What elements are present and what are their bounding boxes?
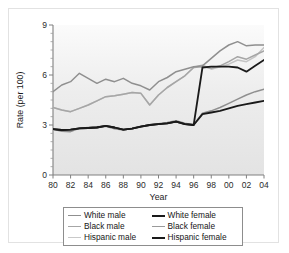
- legend-item-label: White male: [84, 211, 126, 220]
- legend-item[interactable]: Black male: [68, 221, 149, 232]
- legend-column-right: White femaleBlack femaleHispanic female: [149, 210, 239, 243]
- legend-column-left: White maleBlack maleHispanic male: [68, 210, 149, 243]
- y-axis-title: Rate (per 100): [15, 72, 25, 129]
- y-axis-tick-label: 9: [42, 20, 47, 30]
- legend-item-label: Hispanic male: [84, 233, 136, 242]
- legend-item-label: White female: [168, 211, 216, 220]
- chart-legend: White maleBlack maleHispanic male White …: [63, 207, 243, 246]
- y-axis-tick-label: 6: [42, 70, 47, 80]
- x-axis-tick-label: 00: [224, 180, 234, 190]
- legend-item-label: Black male: [84, 222, 125, 231]
- legend-item[interactable]: Hispanic female: [152, 232, 239, 243]
- figure-frame: 036980828486889092949698000204YearRate (…: [8, 8, 279, 243]
- legend-swatch-line-icon: [68, 215, 81, 216]
- x-axis-tick-label: 94: [171, 180, 181, 190]
- y-axis-tick-label: 3: [42, 120, 47, 130]
- legend-swatch-line-icon: [68, 237, 81, 238]
- x-axis-tick-label: 82: [66, 180, 76, 190]
- plot-background: [53, 25, 264, 175]
- legend-item[interactable]: White female: [152, 210, 239, 221]
- x-axis-tick-label: 96: [189, 180, 199, 190]
- x-axis-tick-label: 86: [101, 180, 111, 190]
- x-axis-tick-label: 90: [136, 180, 146, 190]
- x-axis-tick-label: 02: [242, 180, 252, 190]
- x-axis-tick-label: 92: [154, 180, 164, 190]
- x-axis-tick-label: 88: [119, 180, 129, 190]
- legend-swatch-line-icon: [152, 226, 165, 227]
- x-axis-title: Year: [150, 192, 168, 202]
- legend-item[interactable]: White male: [68, 210, 149, 221]
- legend-swatch-line-icon: [152, 237, 165, 239]
- legend-item[interactable]: Hispanic male: [68, 232, 149, 243]
- legend-item-label: Black female: [168, 222, 216, 231]
- x-axis-tick-label: 80: [48, 180, 58, 190]
- legend-swatch-line-icon: [68, 226, 81, 227]
- legend-swatch-line-icon: [152, 215, 165, 217]
- x-axis-tick-label: 98: [207, 180, 217, 190]
- x-axis-tick-label: 84: [83, 180, 93, 190]
- legend-item-label: Hispanic female: [168, 233, 227, 242]
- x-axis-tick-label: 04: [259, 180, 269, 190]
- legend-item[interactable]: Black female: [152, 221, 239, 232]
- y-axis-tick-label: 0: [42, 170, 47, 180]
